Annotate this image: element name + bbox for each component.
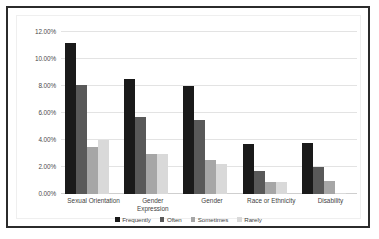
bar-group bbox=[298, 32, 357, 194]
bar bbox=[324, 181, 335, 195]
bar bbox=[194, 120, 205, 194]
plot-area: 0.00%2.00%4.00%6.00%8.00%10.00%12.00% bbox=[61, 32, 357, 194]
y-axis-tick-label: 8.00% bbox=[38, 82, 56, 89]
legend-swatch-icon bbox=[115, 217, 120, 222]
bar bbox=[243, 144, 254, 194]
y-axis-tick-label: 2.00% bbox=[38, 163, 56, 170]
legend-item[interactable]: Frequently bbox=[115, 216, 151, 223]
chart-frame: 0.00%2.00%4.00%6.00%8.00%10.00%12.00% Se… bbox=[6, 6, 370, 228]
y-axis-tick-label: 12.00% bbox=[35, 28, 56, 35]
x-axis-labels: Sexual OrientationGender ExpressionGende… bbox=[61, 197, 357, 213]
bar bbox=[146, 154, 157, 195]
x-axis-category-label: Race or Ethnicity bbox=[239, 197, 298, 213]
bar-group bbox=[120, 32, 179, 194]
legend-label: Rarely bbox=[244, 216, 262, 223]
legend-swatch-icon bbox=[191, 217, 196, 222]
bar bbox=[313, 167, 324, 194]
bar-group bbox=[239, 32, 298, 194]
y-axis-tick-label: 10.00% bbox=[35, 55, 56, 62]
bar bbox=[302, 143, 313, 194]
legend-swatch-icon bbox=[160, 217, 165, 222]
bar bbox=[157, 154, 168, 194]
y-axis-tick-label: 6.00% bbox=[38, 109, 56, 116]
bar bbox=[135, 117, 146, 194]
legend-item[interactable]: Often bbox=[160, 216, 182, 223]
bar-group bbox=[179, 32, 238, 194]
bar bbox=[216, 164, 227, 194]
bar-group bbox=[61, 32, 120, 194]
bar bbox=[335, 193, 346, 194]
bar bbox=[276, 182, 287, 194]
legend-swatch-icon bbox=[237, 217, 242, 222]
y-axis-tick-label: 4.00% bbox=[38, 136, 56, 143]
bar bbox=[98, 140, 109, 194]
y-axis-tick-label: 0.00% bbox=[38, 190, 56, 197]
x-axis-category-label: Sexual Orientation bbox=[61, 197, 120, 213]
bar bbox=[254, 171, 265, 194]
x-axis-category-label: Disability bbox=[298, 197, 357, 213]
bar bbox=[65, 43, 76, 194]
bar bbox=[124, 79, 135, 194]
legend-item[interactable]: Rarely bbox=[237, 216, 262, 223]
bar bbox=[183, 86, 194, 194]
bar bbox=[76, 85, 87, 194]
bars-layer bbox=[61, 32, 357, 194]
legend-item[interactable]: Sometimes bbox=[191, 216, 229, 223]
bar bbox=[205, 160, 216, 194]
bar bbox=[87, 147, 98, 194]
bar bbox=[265, 182, 276, 194]
legend-label: Sometimes bbox=[198, 216, 229, 223]
legend-label: Often bbox=[167, 216, 182, 223]
chart-legend: FrequentlyOftenSometimesRarely bbox=[17, 216, 360, 223]
x-axis-category-label: Gender bbox=[179, 197, 238, 213]
x-axis-category-label: Gender Expression bbox=[120, 197, 179, 213]
chart-container: 0.00%2.00%4.00%6.00%8.00%10.00%12.00% Se… bbox=[16, 15, 361, 219]
legend-label: Frequently bbox=[122, 216, 151, 223]
